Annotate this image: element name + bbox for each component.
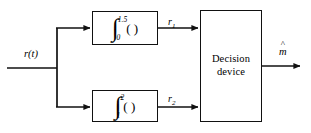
integrator-block-bottom[interactable]: ∫ 2 1 ( ) xyxy=(92,90,158,122)
integral-lower-limit: 1 xyxy=(117,111,121,120)
signal-label-r1-subscript: 1 xyxy=(172,22,176,30)
signal-label-r2-subscript: 2 xyxy=(172,99,176,107)
signal-label-r1: r1 xyxy=(168,16,175,30)
integral-operand: ( ) xyxy=(123,99,135,115)
hat-accent-icon: ^ xyxy=(281,39,285,49)
integral-expression-top: ∫ 1.5 0 ( ) xyxy=(112,17,138,40)
decision-device-label-line2: device xyxy=(212,66,250,79)
output-signal-label: ^m xyxy=(279,46,287,57)
integral-lower-limit: 0 xyxy=(114,33,123,42)
integral-expression-bottom: ∫ 2 1 ( ) xyxy=(115,95,136,118)
decision-device-label-line1: Decision xyxy=(212,53,250,66)
block-diagram: ∫ 1.5 0 ( ) ∫ 2 1 ( ) Decision device r(… xyxy=(0,0,311,133)
integral-operand: ( ) xyxy=(126,21,138,37)
decision-device-label: Decision device xyxy=(212,53,250,79)
integrator-block-top[interactable]: ∫ 1.5 0 ( ) xyxy=(92,11,158,45)
input-signal-label: r(t) xyxy=(24,48,38,59)
output-signal-hat-wrap: ^m xyxy=(279,46,287,57)
decision-device-block[interactable]: Decision device xyxy=(200,10,262,122)
signal-label-r2: r2 xyxy=(168,93,175,107)
